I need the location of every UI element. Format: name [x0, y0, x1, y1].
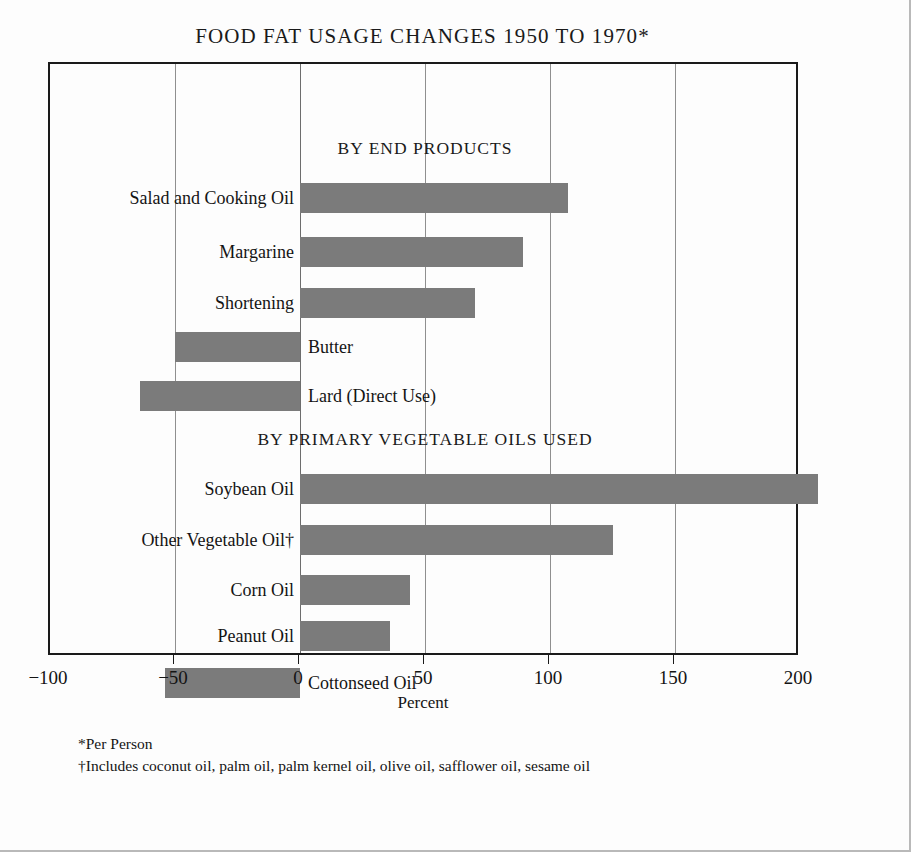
- footnote-0: *Per Person: [78, 733, 590, 755]
- plot-area: BY END PRODUCTSBY PRIMARY VEGETABLE OILS…: [48, 62, 798, 655]
- x-tick-100: [548, 655, 549, 664]
- x-tick-150: [673, 655, 674, 664]
- section-header-0: BY END PRODUCTS: [50, 138, 800, 159]
- footnote-1: †Includes coconut oil, palm oil, palm ke…: [78, 755, 590, 777]
- bar: [175, 332, 300, 362]
- x-tick-label-50: 50: [378, 667, 468, 689]
- section-header-1: BY PRIMARY VEGETABLE OILS USED: [50, 429, 800, 450]
- bar: [300, 575, 410, 605]
- x-tick-label--50: −50: [128, 667, 218, 689]
- chart-card: FOOD FAT USAGE CHANGES 1950 TO 1970* BY …: [0, 0, 911, 852]
- bar-label: Other Vegetable Oil†: [50, 525, 294, 555]
- footnotes: *Per Person†Includes coconut oil, palm o…: [78, 733, 590, 777]
- bar-label: Shortening: [50, 288, 294, 318]
- chart-title: FOOD FAT USAGE CHANGES 1950 TO 1970*: [0, 24, 845, 49]
- x-tick--50: [173, 655, 174, 664]
- x-axis-title: Percent: [48, 693, 798, 713]
- bar: [300, 525, 613, 555]
- bar: [300, 288, 475, 318]
- bar: [300, 183, 568, 213]
- x-tick-label-100: 100: [503, 667, 593, 689]
- bar-label: Soybean Oil: [50, 474, 294, 504]
- x-tick-label-150: 150: [628, 667, 718, 689]
- bar-label: Butter: [308, 332, 353, 362]
- x-tick-0: [298, 655, 299, 664]
- bar: [300, 474, 818, 504]
- bar: [300, 621, 390, 651]
- bar-label: Lard (Direct Use): [308, 381, 436, 411]
- bar: [140, 381, 300, 411]
- x-tick-50: [423, 655, 424, 664]
- bar-label: Salad and Cooking Oil: [50, 183, 294, 213]
- bar-label: Corn Oil: [50, 575, 294, 605]
- bar: [300, 237, 523, 267]
- x-tick-label-200: 200: [753, 667, 843, 689]
- bar-label: Peanut Oil: [50, 621, 294, 651]
- x-tick-label--100: −100: [3, 667, 93, 689]
- bar-label: Margarine: [50, 237, 294, 267]
- x-tick-label-0: 0: [253, 667, 343, 689]
